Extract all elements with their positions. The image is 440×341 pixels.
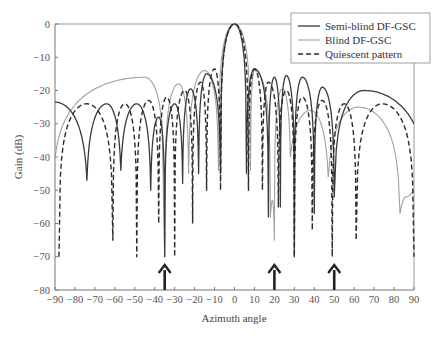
y-tick-label: −30 — [34, 118, 50, 129]
x-tick-label: 0 — [232, 294, 237, 305]
y-tick-label: −10 — [34, 52, 50, 63]
x-tick-label: 20 — [269, 294, 280, 305]
x-tick-label: −10 — [206, 294, 222, 305]
legend-label-semi-blind: Semi-blind DF-GSC — [325, 20, 416, 32]
x-tick-label: 10 — [249, 294, 260, 305]
x-tick-label: −80 — [67, 294, 83, 305]
x-tick-label: 40 — [309, 294, 320, 305]
x-tick-label: 50 — [329, 294, 340, 305]
x-tick-label: −60 — [107, 294, 123, 305]
y-tick-label: −80 — [34, 285, 50, 296]
y-tick-label: −60 — [34, 218, 50, 229]
y-tick-label: −40 — [34, 152, 50, 163]
x-tick-label: −20 — [186, 294, 202, 305]
y-tick-label: −20 — [34, 85, 50, 96]
y-tick-label: −50 — [34, 185, 50, 196]
interference-arrows — [159, 265, 341, 290]
x-tick-label: 90 — [409, 294, 420, 305]
x-tick-label: 60 — [349, 294, 360, 305]
y-tick-label: −70 — [34, 251, 50, 262]
x-tick-label: 80 — [389, 294, 400, 305]
x-tick-label: 70 — [369, 294, 380, 305]
x-tick-label: −40 — [147, 294, 163, 305]
y-tick-label: 0 — [45, 19, 50, 30]
legend-label-quiescent: Quiescent pattern — [325, 48, 403, 60]
x-tick-label: −90 — [47, 294, 63, 305]
legend: Semi-blind DF-GSC Blind DF-GSC Quiescent… — [291, 13, 430, 63]
x-tick-label: 30 — [289, 294, 300, 305]
x-axis-title: Azimuth angle — [201, 312, 266, 324]
y-axis-title: Gain (dB) — [12, 135, 25, 180]
gain-vs-azimuth-chart: −90−80−70−60−50−40−30−20−100102030405060… — [0, 0, 440, 341]
x-tick-label: −30 — [166, 294, 182, 305]
legend-label-blind: Blind DF-GSC — [325, 34, 391, 46]
x-tick-label: −70 — [87, 294, 103, 305]
x-tick-label: −50 — [127, 294, 143, 305]
